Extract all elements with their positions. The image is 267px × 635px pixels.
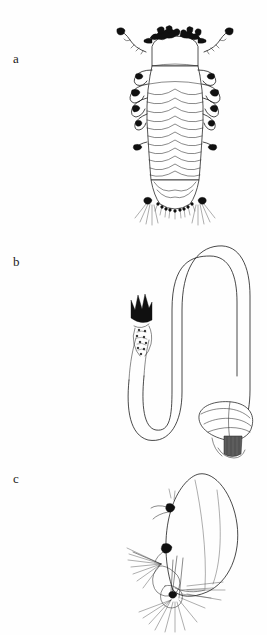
setal-fan-upper-left <box>127 548 161 588</box>
figure-a-svg <box>110 18 240 238</box>
panel-c-parapodium-detail: c <box>0 460 267 635</box>
illustration-plate: a <box>0 0 267 635</box>
panel-label-c: c <box>13 472 19 485</box>
dorsal-cirrus-upper <box>151 489 175 519</box>
figure-c-svg <box>125 460 250 635</box>
figure-b-svg <box>100 240 255 470</box>
panel-label-a: a <box>13 52 19 65</box>
terminal-shaded-segment <box>224 436 242 457</box>
parapodia-right <box>198 28 233 150</box>
panel-label-b: b <box>13 255 20 268</box>
anal-cirri-left <box>135 197 158 225</box>
anal-cirri-right <box>192 197 215 225</box>
setae-right-fine <box>187 582 225 600</box>
panel-b-sinuous-tube: b <box>0 240 267 470</box>
dorsal-cirrus-middle <box>155 543 172 562</box>
panel-a-dorsal-whole-body: a <box>0 0 267 240</box>
pharyngeal-jaw-apparatus <box>131 294 152 328</box>
parapodia-left <box>117 28 152 150</box>
neuropodial-lobes <box>153 566 183 608</box>
